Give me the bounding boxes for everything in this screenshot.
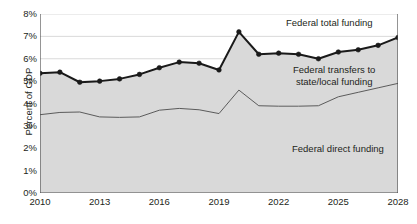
x-tick-label: 2019 <box>196 197 242 207</box>
annotation-federal-transfers-line2: state/local funding <box>293 76 375 88</box>
x-tick-label: 2013 <box>77 197 123 207</box>
data-point-marker <box>276 51 281 56</box>
annotation-federal-direct-funding: Federal direct funding <box>292 143 384 155</box>
annotation-federal-transfers: Federal transfers to state/local funding <box>293 64 375 88</box>
y-tick-label: 7% <box>3 31 37 41</box>
data-point-marker <box>336 50 341 55</box>
x-tick-label: 2016 <box>136 197 182 207</box>
data-point-marker <box>237 30 242 35</box>
data-point-marker <box>77 80 82 85</box>
data-point-marker <box>376 43 381 48</box>
y-tick-label: 5% <box>3 76 37 86</box>
y-tick-label: 6% <box>3 54 37 64</box>
data-point-marker <box>137 72 142 77</box>
x-tick-label: 2028 <box>375 197 417 207</box>
data-point-marker <box>316 56 321 61</box>
data-point-marker <box>58 70 63 75</box>
data-point-marker <box>256 52 261 57</box>
y-tick-label: 2% <box>3 143 37 153</box>
annotation-federal-transfers-line1: Federal transfers to <box>293 64 375 76</box>
y-tick-label: 1% <box>3 166 37 176</box>
plot-area <box>40 14 398 193</box>
x-tick-label: 2022 <box>256 197 302 207</box>
y-tick-label: 4% <box>3 99 37 109</box>
x-tick-label: 2025 <box>315 197 361 207</box>
data-point-marker <box>296 52 301 57</box>
chart-container: Percent of GDP 0%1%2%3%4%5%6%7%8% 201020… <box>0 0 417 224</box>
chart-svg <box>40 14 398 193</box>
data-point-marker <box>97 79 102 84</box>
x-axis-ticks: 2010201320162019202220252028 <box>0 197 417 217</box>
annotation-federal-total-funding: Federal total funding <box>286 17 373 29</box>
y-tick-label: 3% <box>3 121 37 131</box>
x-tick-label: 2010 <box>17 197 63 207</box>
data-point-marker <box>197 61 202 66</box>
y-tick-label: 8% <box>3 9 37 19</box>
data-point-marker <box>157 65 162 70</box>
data-point-marker <box>177 60 182 65</box>
data-point-marker <box>356 48 361 53</box>
data-point-marker <box>117 77 122 82</box>
y-axis-ticks: 0%1%2%3%4%5%6%7%8% <box>0 0 37 224</box>
data-point-marker <box>217 68 222 73</box>
